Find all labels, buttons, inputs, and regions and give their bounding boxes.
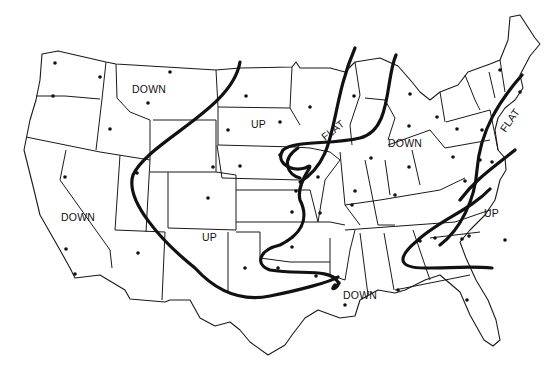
city-dot <box>136 251 140 255</box>
city-dot <box>455 127 459 131</box>
city-dot <box>290 245 294 249</box>
city-dot <box>276 266 280 270</box>
city-dot <box>64 247 68 251</box>
city-dot <box>314 274 318 278</box>
city-dot <box>206 196 210 200</box>
label-southwest-up: UP <box>202 232 217 243</box>
city-dot <box>503 238 507 242</box>
label-northwest-down: DOWN <box>132 84 166 95</box>
city-dot <box>51 94 55 98</box>
label-west-coast-down: DOWN <box>61 212 95 223</box>
city-dot <box>407 124 411 128</box>
city-dot <box>460 237 464 241</box>
city-dot <box>451 155 455 159</box>
city-dot <box>98 75 102 79</box>
city-dot <box>352 94 356 98</box>
city-dot <box>518 90 522 94</box>
city-dot <box>465 298 469 302</box>
city-dot <box>369 156 373 160</box>
label-ohio-valley-down: DOWN <box>388 138 422 149</box>
city-dot <box>316 175 320 179</box>
city-dot <box>146 101 150 105</box>
city-dot <box>337 281 341 285</box>
city-dot <box>463 179 467 183</box>
map-svg <box>0 0 557 391</box>
city-dot <box>318 211 322 215</box>
city-dot <box>63 175 67 179</box>
city-dot <box>418 239 422 243</box>
label-gulf-down: DOWN <box>343 290 377 301</box>
city-dot <box>490 160 494 164</box>
city-dot <box>408 92 412 96</box>
city-dot <box>480 128 484 132</box>
city-dot <box>238 164 242 168</box>
city-dot <box>278 120 282 124</box>
city-dot <box>108 127 112 131</box>
city-dot <box>498 68 502 72</box>
city-dot <box>243 266 247 270</box>
city-dot <box>53 61 57 65</box>
city-dot <box>73 272 77 276</box>
city-dot <box>244 94 248 98</box>
city-dot <box>308 105 312 109</box>
city-dot <box>433 236 437 240</box>
city-dot <box>135 171 139 175</box>
city-dot <box>478 158 482 162</box>
city-dot <box>467 234 471 238</box>
city-dot <box>396 288 400 292</box>
city-dot <box>407 165 411 169</box>
us-outline <box>24 15 540 355</box>
city-dot <box>290 210 294 214</box>
city-dot <box>294 189 298 193</box>
city-dot <box>343 303 347 307</box>
city-dot <box>353 189 357 193</box>
city-dot <box>168 70 172 74</box>
city-dot <box>435 115 439 119</box>
city-dot <box>393 193 397 197</box>
city-dot <box>278 153 282 157</box>
city-dot <box>350 203 354 207</box>
us-trend-map: DOWN UP FLAT DOWN FLAT DOWN UP UP DOWN <box>0 0 557 391</box>
label-northern-plains-up: UP <box>251 119 266 130</box>
city-dot <box>226 128 230 132</box>
city-dot <box>211 165 215 169</box>
label-southeast-up: UP <box>484 208 499 219</box>
